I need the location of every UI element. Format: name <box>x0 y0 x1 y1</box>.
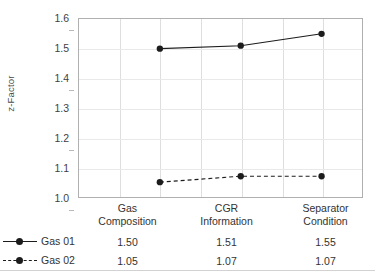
legend-entry-1: Gas 01 <box>0 232 78 251</box>
y-tick-label: 1.6 <box>54 12 69 24</box>
category-header-line: Condition <box>276 215 375 228</box>
plot-area <box>78 18 363 198</box>
data-table: GasCompositionCGRInformationSeparatorCon… <box>0 198 375 271</box>
category-header-1: GasComposition <box>78 198 177 232</box>
data-point-marker <box>318 31 324 37</box>
value-cell: 1.51 <box>177 232 276 251</box>
y-tick-mark <box>69 150 74 151</box>
value-cell: 1.05 <box>78 251 177 271</box>
category-header-line: Separator <box>276 202 375 215</box>
value-cell: 1.07 <box>276 251 375 271</box>
legend-inner: Gas 02 <box>3 254 75 266</box>
category-header-2: CGRInformation <box>177 198 276 232</box>
value-cell: 1.07 <box>177 251 276 271</box>
value-cell: 1.50 <box>78 232 177 251</box>
legend-marker-icon <box>3 237 37 246</box>
data-point-marker <box>318 173 324 179</box>
table-row: Gas 011.501.511.55 <box>0 232 375 251</box>
legend-label: Gas 01 <box>41 235 75 247</box>
legend-marker-icon <box>3 256 37 265</box>
table-row: Gas 021.051.071.07 <box>0 251 375 271</box>
table-corner-cell <box>0 198 78 232</box>
y-tick-label: 1.5 <box>54 42 69 54</box>
data-table-body: GasCompositionCGRInformationSeparatorCon… <box>0 198 375 271</box>
category-header-line: Composition <box>78 215 177 228</box>
legend-dot-icon <box>16 257 23 264</box>
category-header-line: Gas <box>78 202 177 215</box>
category-header-line: Information <box>177 215 276 228</box>
table-header-row: GasCompositionCGRInformationSeparatorCon… <box>0 198 375 232</box>
legend-inner: Gas 01 <box>3 235 75 247</box>
category-header-line: CGR <box>177 202 276 215</box>
y-tick-label: 1.1 <box>54 162 69 174</box>
y-tick-mark <box>69 90 74 91</box>
data-point-marker <box>238 173 244 179</box>
data-point-marker <box>157 179 163 185</box>
category-header-3: SeparatorCondition <box>276 198 375 232</box>
y-tick-label: 1.2 <box>54 132 69 144</box>
value-cell: 1.55 <box>276 232 375 251</box>
data-table-wrapper: GasCompositionCGRInformationSeparatorCon… <box>0 198 375 271</box>
y-tick-label: 1.3 <box>54 102 69 114</box>
chart-screenshot: z-Factor 1.61.51.41.31.21.11.0 GasCompos… <box>0 0 375 279</box>
data-point-marker <box>157 46 163 52</box>
series-layer <box>79 19 362 197</box>
y-axis-title: z-Factor <box>5 62 16 126</box>
legend-entry-2: Gas 02 <box>0 251 78 271</box>
y-tick-label: 1.4 <box>54 72 69 84</box>
legend-dot-icon <box>16 238 23 245</box>
data-point-marker <box>238 43 244 49</box>
y-tick-mark <box>69 30 74 31</box>
legend-label: Gas 02 <box>41 254 75 266</box>
